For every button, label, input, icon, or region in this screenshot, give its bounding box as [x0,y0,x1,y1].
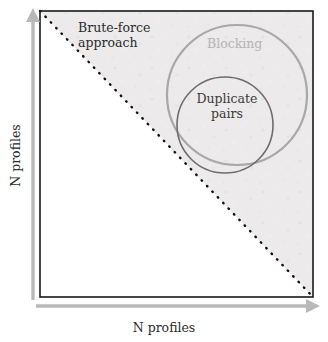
diagram-svg [0,0,328,342]
brute-force-label: Brute-forceapproach [78,20,150,50]
duplicate-pairs-label: Duplicatepairs [192,91,262,121]
brute-force-label-line2: approach [78,35,137,50]
duplicate-pairs-label-line2: pairs [211,106,243,121]
y-axis-label: N profiles [8,108,23,204]
duplicate-pairs-label-line1: Duplicate [197,91,258,106]
brute-force-label-line1: Brute-force [78,20,150,35]
diagram-canvas: Brute-forceapproach Blocking Duplicatepa… [0,0,328,342]
x-axis-label: N profiles [0,320,328,335]
blocking-label: Blocking [207,36,262,51]
x-axis-arrow [36,299,320,313]
y-axis-arrow [26,8,40,300]
